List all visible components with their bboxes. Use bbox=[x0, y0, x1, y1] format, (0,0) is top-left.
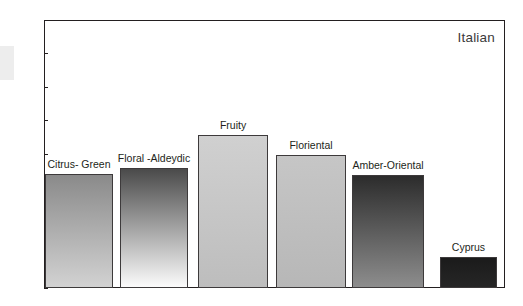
bar bbox=[440, 257, 497, 288]
bar bbox=[198, 135, 268, 288]
bar-label: Amber-Oriental bbox=[322, 159, 454, 171]
bar bbox=[352, 175, 424, 288]
bar-label: Floriental bbox=[246, 139, 376, 151]
bar-label: Cyprus bbox=[410, 241, 523, 253]
bar-label: Fruity bbox=[168, 119, 298, 131]
bar-series: Citrus- GreenFloral -AldeydicFruityFlori… bbox=[0, 0, 523, 306]
series-annotation: Italian bbox=[458, 30, 495, 45]
chart-root: 0510152025303540 Citrus- GreenFloral -Al… bbox=[0, 0, 523, 306]
bar bbox=[120, 168, 188, 288]
bar bbox=[276, 155, 346, 288]
bar bbox=[45, 174, 113, 288]
